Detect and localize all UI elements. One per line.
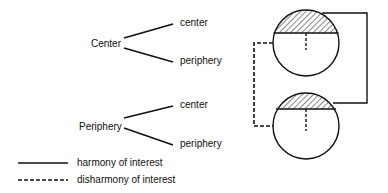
disharmony-connector	[254, 43, 273, 126]
legend-dashed-label: disharmony of interest	[77, 174, 175, 186]
center-child-center-label: center	[180, 17, 208, 29]
legend-solid-label: harmony of interest	[77, 157, 163, 169]
periphery-branches	[124, 106, 173, 145]
top-circle-nation	[273, 10, 339, 76]
periphery-root-label: Periphery	[79, 121, 122, 133]
center-branches	[124, 24, 173, 62]
center-child-periphery-label: periphery	[180, 55, 222, 67]
bottom-circle-nation	[273, 93, 339, 159]
periphery-child-center-label: center	[180, 99, 208, 111]
center-root-label: Center	[91, 38, 121, 50]
periphery-child-periphery-label: periphery	[180, 138, 222, 150]
center-periphery-diagram: Center center periphery Periphery center…	[0, 0, 388, 193]
